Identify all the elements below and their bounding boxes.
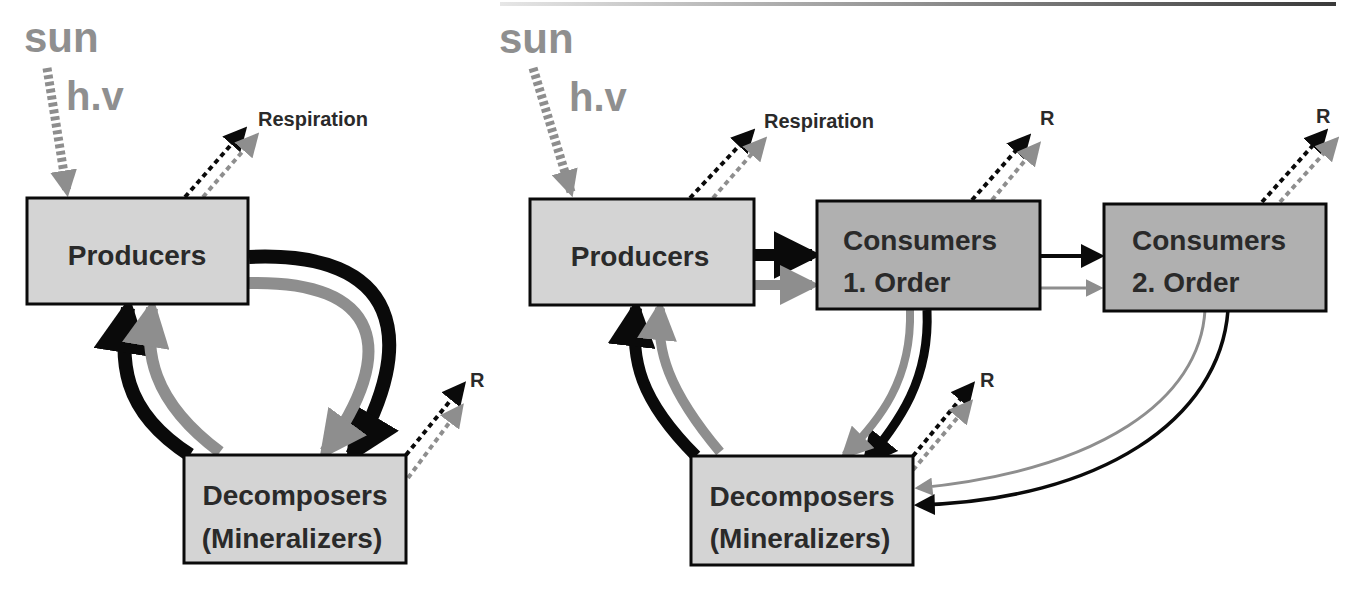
sunlight-arrow-right-icon: [533, 68, 571, 192]
producers-label: Producers: [68, 240, 207, 271]
producers-box-right: Producers: [530, 199, 754, 305]
consumer2-respiration-arrow-black-icon: [1262, 132, 1325, 202]
decomposer-respiration-arrow-gray-right-icon: [913, 403, 970, 470]
respiration-arrow-gray-right-icon: [713, 140, 764, 198]
decomposer-r-label-right: R: [980, 369, 995, 391]
consumers2-box: Consumers 2. Order: [1104, 204, 1326, 311]
respiration-arrow-black-icon: [185, 130, 244, 197]
right-diagram: sun h.v Respiration R R R: [499, 15, 1336, 565]
sun-label-right: sun: [499, 15, 574, 62]
decomposer-respiration-arrow-black-right-icon: [913, 385, 972, 456]
flow-producers-to-decomposers-gray: [249, 283, 368, 452]
producers-label-right: Producers: [571, 241, 710, 272]
consumer1-r-label: R: [1040, 107, 1055, 129]
energy-label: h.v: [66, 74, 125, 118]
mineralizers-label: (Mineralizers): [202, 523, 383, 554]
consumers1-order-label: 1. Order: [843, 267, 950, 298]
decomposer-r-label: R: [470, 369, 485, 391]
respiration-label-right: Respiration: [764, 110, 874, 132]
consumer2-r-label: R: [1316, 105, 1331, 127]
consumers2-label: Consumers: [1132, 225, 1286, 256]
sunlight-arrow-icon: [47, 68, 67, 192]
decomposers-box: Decomposers (Mineralizers): [184, 455, 406, 563]
decomposers-label: Decomposers: [202, 480, 387, 511]
producers-box: Producers: [27, 198, 248, 304]
left-diagram: sun h.v Respiration R Producers Decompos…: [24, 14, 485, 563]
mineralizers-label-right: (Mineralizers): [710, 523, 891, 554]
ecosystem-flow-diagram: sun h.v Respiration R Producers Decompos…: [0, 0, 1346, 603]
consumers1-label: Consumers: [843, 225, 997, 256]
sun-label: sun: [24, 14, 99, 61]
decomposer-respiration-arrow-black-icon: [406, 385, 463, 455]
decomposers-label-right: Decomposers: [709, 481, 894, 512]
energy-label-right: h.v: [569, 75, 628, 119]
decomposers-box-right: Decomposers (Mineralizers): [691, 456, 913, 565]
consumers2-order-label: 2. Order: [1132, 267, 1239, 298]
flow-decomposers-to-producers-black-right: [634, 308, 696, 456]
flow-consumers2-to-decomposers-black: [918, 310, 1228, 505]
flow-consumers1-to-decomposers-gray: [845, 310, 910, 455]
consumers1-box: Consumers 1. Order: [817, 201, 1040, 309]
respiration-label: Respiration: [258, 108, 368, 130]
top-divider-line: [500, 2, 1336, 6]
